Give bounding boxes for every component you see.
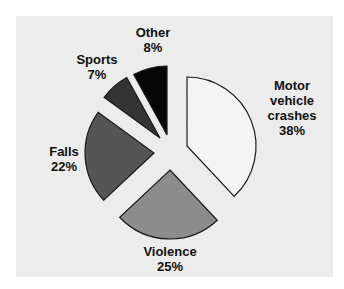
label-other-name: Other	[128, 25, 178, 40]
label-motor-line2: vehicle	[258, 93, 326, 108]
label-sports-pct: 7%	[72, 67, 122, 82]
label-sports: Sports 7%	[72, 52, 122, 82]
label-violence-pct: 25%	[135, 259, 205, 274]
label-sports-name: Sports	[72, 52, 122, 67]
label-motor-vehicle-crashes: Motor vehicle crashes 38%	[258, 78, 326, 138]
label-falls-name: Falls	[44, 144, 84, 159]
label-other-pct: 8%	[128, 40, 178, 55]
label-violence-name: Violence	[135, 244, 205, 259]
slice-violence	[120, 170, 218, 239]
label-motor-line1: Motor	[258, 78, 326, 93]
label-falls: Falls 22%	[44, 144, 84, 174]
label-other: Other 8%	[128, 25, 178, 55]
label-motor-line3: crashes	[258, 108, 326, 123]
label-motor-pct: 38%	[258, 123, 326, 138]
label-falls-pct: 22%	[44, 159, 84, 174]
label-violence: Violence 25%	[135, 244, 205, 274]
slice-motor-vehicle-crashes	[187, 77, 256, 196]
